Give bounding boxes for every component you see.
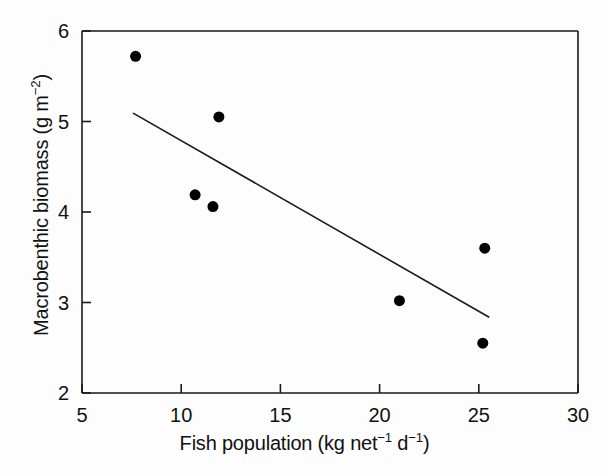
- regression-line: [134, 113, 489, 317]
- data-point: [394, 295, 405, 306]
- plot-frame: [82, 31, 578, 393]
- x-axis-label-main: Fish population (kg net: [180, 432, 378, 454]
- x-axis-label-mid: d: [392, 432, 408, 454]
- y-axis-label-main: Macrobenthic biomass (g m: [30, 95, 52, 336]
- y-axis-label-container: Macrobenthic biomass (g m−2): [30, 5, 60, 405]
- x-tick-label: 25: [468, 404, 490, 426]
- y-axis-label-sup1: −2: [28, 81, 43, 96]
- x-axis-label-sup2: −1: [408, 430, 423, 445]
- x-tick-label: 5: [76, 404, 87, 426]
- data-points: [130, 51, 490, 349]
- scatter-plot: 5101520253023456: [0, 0, 609, 476]
- data-point: [190, 189, 201, 200]
- x-tick-label: 15: [269, 404, 291, 426]
- trend-line: [134, 113, 489, 317]
- axis-ticks: [82, 31, 578, 393]
- data-point: [130, 51, 141, 62]
- x-axis-label: Fish population (kg net−1 d−1): [0, 432, 609, 455]
- chart-figure: 5101520253023456 Fish population (kg net…: [0, 0, 609, 476]
- y-axis-label-end: ): [30, 74, 52, 80]
- data-point: [477, 338, 488, 349]
- x-tick-label: 10: [170, 404, 192, 426]
- data-point: [213, 111, 224, 122]
- y-axis-label: Macrobenthic biomass (g m−2): [30, 74, 53, 336]
- x-tick-label: 30: [567, 404, 589, 426]
- data-point: [207, 201, 218, 212]
- data-point: [479, 243, 490, 254]
- x-axis-label-end: ): [423, 432, 429, 454]
- x-axis-label-sup1: −1: [377, 430, 392, 445]
- x-tick-label: 20: [368, 404, 390, 426]
